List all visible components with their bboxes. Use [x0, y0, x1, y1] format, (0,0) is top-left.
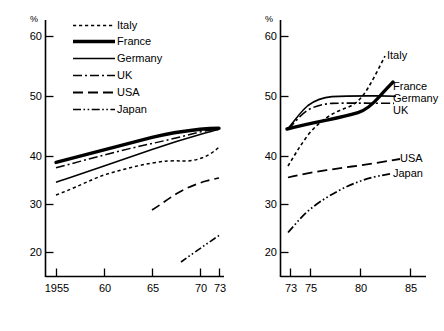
left-ytick-50: 50: [14, 91, 42, 102]
left-xtick-1955: 1955: [37, 283, 77, 294]
chart-figure: % 60 50 40 30 20 1955 60 65 70 73 Italy …: [0, 0, 444, 331]
legend-label-usa: USA: [117, 87, 140, 98]
right-ytick-50: 50: [249, 91, 277, 102]
legend-label-japan: Japan: [117, 104, 147, 115]
right-xtick-75: 75: [295, 283, 327, 294]
series-label-usa: USA: [400, 153, 423, 164]
series-line-japan: [181, 236, 219, 263]
series-line-japan: [288, 174, 392, 233]
right-xtick-85: 85: [395, 283, 427, 294]
right-ytick-20: 20: [249, 247, 277, 258]
right-xtick-80: 80: [345, 283, 377, 294]
right-ytick-60: 60: [249, 31, 277, 42]
left-ytick-20: 20: [14, 247, 42, 258]
right-ytick-30: 30: [249, 199, 277, 210]
chart-panel-right: % 60 50 40 30 20 73 75 80 85 Italy Franc…: [230, 0, 444, 331]
series-line-usa: [152, 178, 219, 210]
legend-label-france: France: [117, 36, 151, 47]
series-line-france: [287, 82, 393, 129]
series-label-france: France: [393, 81, 427, 92]
left-ytick-40: 40: [14, 151, 42, 162]
series-label-japan: Japan: [393, 168, 423, 179]
legend-label-italy: Italy: [117, 20, 137, 31]
series-label-germany: Germany: [393, 93, 438, 104]
right-ytick-40: 40: [249, 151, 277, 162]
legend-label-germany: Germany: [117, 53, 162, 64]
right-axis-unit: %: [265, 14, 273, 25]
left-xtick-65: 65: [137, 283, 169, 294]
legend-label-uk: UK: [117, 70, 132, 81]
chart-panel-left: % 60 50 40 30 20 1955 60 65 70 73 Italy …: [0, 0, 230, 331]
left-axis-unit: %: [30, 14, 38, 25]
left-xtick-60: 60: [89, 283, 121, 294]
left-ytick-60: 60: [14, 31, 42, 42]
series-label-uk: UK: [393, 105, 408, 116]
series-label-italy: Italy: [387, 50, 407, 61]
left-ytick-30: 30: [14, 199, 42, 210]
left-legend-samples: [73, 26, 115, 110]
